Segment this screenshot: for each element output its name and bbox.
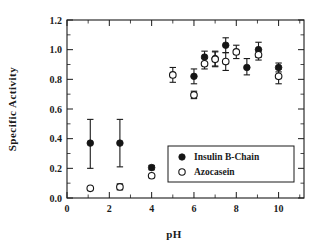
data-point-open: [233, 49, 240, 56]
scatter-plot-canvas: 0246810 0.00.20.40.60.81.01.2 pH Specifi…: [0, 0, 315, 248]
data-point-filled: [117, 140, 124, 147]
x-tick-label: 4: [149, 203, 154, 214]
legend-label: Azocasein: [194, 167, 235, 177]
x-tick-label: 0: [65, 203, 70, 214]
x-tick-label: 2: [107, 203, 112, 214]
y-tick-label: 0.4: [50, 133, 63, 144]
data-point-filled: [191, 73, 198, 80]
y-axis-label: Specific Activity: [6, 67, 18, 152]
y-axis-tick-labels: 0.00.20.40.60.81.01.2: [50, 15, 63, 204]
data-point-open: [222, 58, 229, 65]
data-point-open: [148, 172, 155, 179]
data-point-filled: [87, 140, 94, 147]
data-point-open: [87, 185, 94, 192]
chart-figure: 0246810 0.00.20.40.60.81.01.2 pH Specifi…: [0, 0, 315, 248]
data-point-open: [117, 184, 124, 191]
y-tick-label: 0.8: [50, 74, 63, 85]
legend-label: Insulin B-Chain: [194, 152, 260, 162]
data-point-open: [191, 92, 198, 99]
x-tick-label: 10: [274, 203, 284, 214]
data-point-open: [201, 60, 208, 67]
chart-legend: Insulin B-ChainAzocasein: [168, 146, 294, 182]
data-point-open: [275, 73, 282, 80]
x-tick-label: 6: [191, 203, 196, 214]
data-point-open: [170, 72, 177, 79]
x-axis-label: pH: [166, 228, 182, 240]
y-tick-label: 0.2: [50, 163, 63, 174]
data-point-open: [212, 56, 219, 63]
y-tick-label: 0.6: [50, 104, 63, 115]
legend-marker-open: [179, 169, 185, 175]
x-tick-label: 8: [234, 203, 239, 214]
y-tick-label: 0.0: [50, 193, 63, 204]
x-axis-tick-labels: 0246810: [65, 203, 284, 214]
legend-marker-filled: [179, 154, 185, 160]
data-point-filled: [222, 42, 229, 49]
data-point-filled: [148, 164, 155, 171]
data-point-filled: [244, 64, 251, 71]
data-point-open: [255, 52, 262, 59]
y-tick-label: 1.0: [50, 44, 63, 55]
y-tick-label: 1.2: [50, 15, 63, 26]
